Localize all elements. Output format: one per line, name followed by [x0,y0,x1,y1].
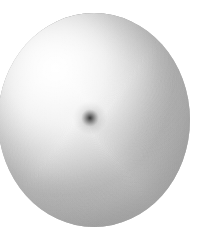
spiral-sphere-overlay [0,0,212,237]
image-canvas-root: Greyscale sphere covered in a dense spir… [0,0,212,237]
spiral-core-glow [81,109,99,127]
sphere-shading-layer [0,13,190,227]
